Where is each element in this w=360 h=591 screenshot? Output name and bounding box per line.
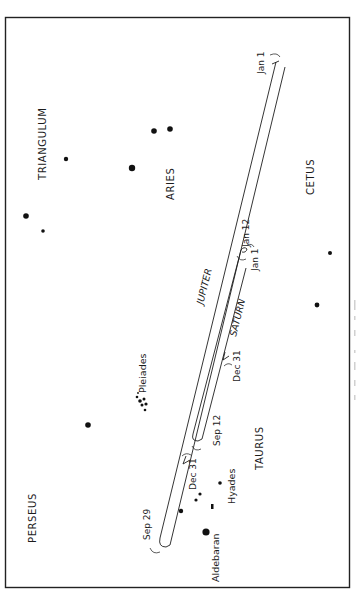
label-saturn: SATURN bbox=[227, 298, 247, 338]
label-aries: ARIES bbox=[165, 168, 176, 200]
date-jupiter-sep29: Sep 29 bbox=[142, 508, 152, 540]
label-cetus: CETUS bbox=[305, 159, 316, 195]
date-saturn-jan1: Jan 1 bbox=[250, 249, 260, 272]
label-taurus: TAURUS bbox=[254, 426, 265, 471]
date-saturn-dec31: Dec 31 bbox=[232, 350, 242, 382]
label-pleiades: Pleiades bbox=[137, 353, 148, 393]
label-hyades: Hyades bbox=[226, 469, 237, 504]
chart-frame bbox=[6, 18, 350, 588]
aldebaran-star bbox=[202, 528, 209, 535]
stars bbox=[23, 126, 332, 535]
pleiades-cluster bbox=[136, 392, 148, 411]
label-triangulum: TRIANGULUM bbox=[37, 108, 48, 181]
label-perseus: PERSEUS bbox=[27, 493, 38, 543]
date-saturn-sep12: Sep 12 bbox=[212, 415, 222, 446]
date-saturn-jan12: Jan 12 bbox=[241, 219, 251, 248]
label-aldebaran: Aldebaran bbox=[210, 533, 221, 582]
date-jupiter-jan1: Jan 1 bbox=[256, 52, 266, 75]
label-jupiter: JUPITER bbox=[194, 267, 214, 307]
date-jupiter-dec31: Dec 31 bbox=[188, 458, 198, 490]
jupiter-path bbox=[160, 61, 285, 547]
faded-caption bbox=[354, 300, 356, 400]
hyades-star bbox=[218, 481, 222, 485]
star-chart: TRIANGULUM ARIES CETUS PERSEUS TAURUS Pl… bbox=[0, 0, 360, 591]
